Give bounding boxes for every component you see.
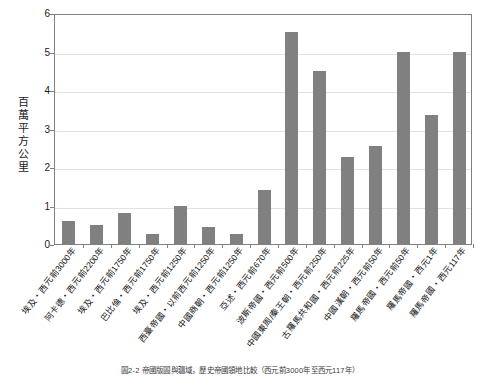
y-axis-title-char: 萬 <box>6 109 40 122</box>
y-tick-label: 5 <box>34 47 50 58</box>
y-tick-label: 0 <box>34 239 50 250</box>
figure-caption: 圖2-2 帝國版圖與疆域，歷史帝國領地比較（西元前3000年至西元117年） <box>0 364 480 375</box>
y-tick-mark <box>50 53 54 54</box>
x-axis-labels: 埃及・西元前3000年阿卡德・西元前2200年埃及・西元前1750年巴比倫・西元… <box>54 246 472 356</box>
y-axis-title-char: 方 <box>6 135 40 148</box>
y-tick-label: 4 <box>34 85 50 96</box>
y-tick-mark <box>50 130 54 131</box>
y-axis-title-char: 百 <box>6 96 40 109</box>
y-tick-label: 1 <box>34 201 50 212</box>
y-tick-label: 2 <box>34 162 50 173</box>
chart-figure: 百萬平方公里 0123456 埃及・西元前3000年阿卡德・西元前2200年埃及… <box>0 0 480 376</box>
y-tick-mark <box>50 14 54 15</box>
y-tick-label: 6 <box>34 8 50 19</box>
x-tick-label-text: 羅馬帝國・西元117年 <box>408 246 468 319</box>
y-tick-label: 3 <box>34 124 50 135</box>
y-tick-mark <box>50 207 54 208</box>
x-tick-label-text: 羅馬帝國・西元1年 <box>386 246 440 312</box>
bar <box>62 221 75 244</box>
y-axis-title-char: 公 <box>6 148 40 161</box>
y-tick-mark <box>50 91 54 92</box>
x-tick-label-text: 亞述・西元前670年 <box>218 246 273 312</box>
y-tick-mark <box>50 168 54 169</box>
